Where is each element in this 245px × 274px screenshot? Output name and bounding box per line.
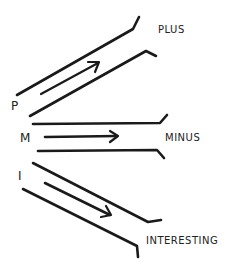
plus-arrow-icon bbox=[41, 62, 99, 94]
plus-upper-channel-line bbox=[17, 17, 139, 95]
minus-arrow-icon bbox=[45, 131, 118, 142]
interesting-label: INTERESTING bbox=[146, 235, 218, 246]
plus-branch: P PLUS bbox=[11, 17, 185, 116]
plus-lower-channel-line bbox=[30, 51, 156, 116]
plus-letter: P bbox=[11, 99, 18, 113]
pmi-diagram: P PLUS M MINUS I INTERESTING bbox=[0, 0, 245, 274]
interesting-upper-channel-line bbox=[33, 163, 161, 222]
minus-upper-channel-line bbox=[33, 115, 167, 124]
interesting-arrow-icon bbox=[45, 183, 111, 217]
minus-label: MINUS bbox=[165, 132, 200, 143]
minus-lower-channel-line bbox=[38, 150, 164, 158]
diagram-svg: P PLUS M MINUS I INTERESTING bbox=[0, 0, 245, 274]
minus-branch: M MINUS bbox=[20, 115, 200, 158]
interesting-branch: I INTERESTING bbox=[18, 163, 218, 257]
minus-letter: M bbox=[20, 131, 30, 145]
plus-label: PLUS bbox=[158, 24, 185, 35]
interesting-letter: I bbox=[18, 169, 22, 183]
